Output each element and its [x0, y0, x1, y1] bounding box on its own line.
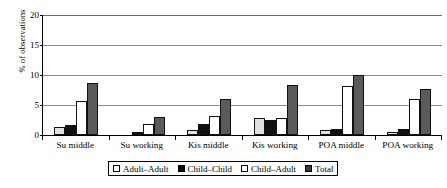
legend-item: Child–Adult	[241, 164, 296, 174]
legend-item: Child–Child	[178, 164, 233, 174]
x-axis-label: POA working	[375, 140, 442, 151]
x-tick-mark	[441, 135, 442, 140]
y-tick-label-0: 0	[35, 131, 40, 140]
bar	[420, 89, 431, 135]
bar	[287, 85, 298, 135]
legend-swatch-icon	[241, 165, 248, 172]
bar	[353, 75, 364, 135]
plot-area: 05101520	[42, 15, 442, 136]
legend-item-label: Child–Child	[188, 164, 233, 174]
bar	[220, 99, 231, 135]
x-tick-mark	[42, 135, 43, 140]
bar-group	[110, 15, 177, 135]
x-axis-label: Kis middle	[175, 140, 242, 151]
y-axis-title: % of observations	[17, 0, 27, 101]
bar-groups	[43, 15, 442, 135]
y-tick-label-20: 20	[30, 11, 39, 20]
legend-swatch-icon	[113, 165, 120, 172]
bar-group	[376, 15, 443, 135]
bar	[342, 86, 353, 135]
bar-group	[309, 15, 376, 135]
bar	[209, 116, 220, 135]
x-axis-label: POA middle	[308, 140, 375, 151]
legend-item-label: Total	[315, 164, 333, 174]
x-axis-labels: Su middleSu workingKis middleKis working…	[42, 140, 441, 151]
legend-swatch-icon	[305, 165, 312, 172]
bar	[254, 118, 265, 135]
y-tick-label-15: 15	[30, 41, 39, 50]
bar	[265, 120, 276, 135]
x-axis-label: Su working	[109, 140, 176, 151]
x-tick-mark	[375, 135, 376, 140]
chart-legend: Adult–AdultChild–ChildChild–AdultTotal	[108, 161, 338, 176]
x-axis-label: Su middle	[42, 140, 109, 151]
bar	[154, 117, 165, 135]
bar	[276, 118, 287, 135]
bar	[409, 99, 420, 135]
y-tick-label-10: 10	[30, 71, 39, 80]
legend-swatch-icon	[178, 165, 185, 172]
x-tick-mark	[175, 135, 176, 140]
bar-group	[176, 15, 243, 135]
bar-group	[243, 15, 310, 135]
bar-group	[43, 15, 110, 135]
x-tick-mark	[109, 135, 110, 140]
bar	[198, 124, 209, 135]
legend-item-label: Child–Adult	[251, 164, 296, 174]
y-tick-label-5: 5	[35, 101, 40, 110]
x-axis-label: Kis working	[242, 140, 309, 151]
x-tick-mark	[242, 135, 243, 140]
legend-item-label: Adult–Adult	[123, 164, 169, 174]
legend-item: Total	[305, 164, 333, 174]
x-tick-mark	[308, 135, 309, 140]
bar	[54, 127, 65, 135]
bar	[143, 124, 154, 135]
bar-chart-figure: % of observations 05101520 Su middleSu w…	[0, 0, 447, 188]
bar	[87, 83, 98, 135]
legend-item: Adult–Adult	[113, 164, 169, 174]
bar	[65, 125, 76, 135]
bar	[76, 101, 87, 135]
